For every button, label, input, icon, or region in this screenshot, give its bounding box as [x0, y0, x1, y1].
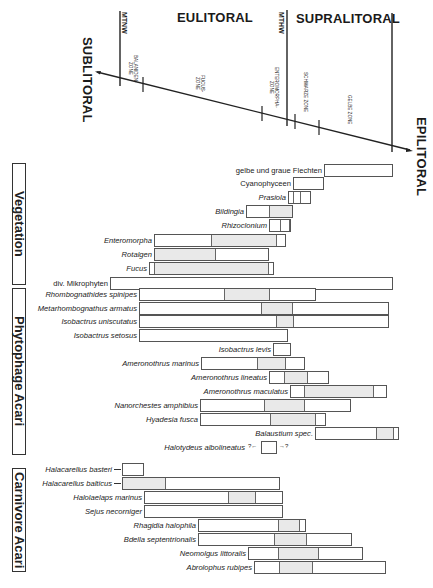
distribution-bar — [200, 413, 326, 426]
range-segment — [247, 206, 269, 217]
row-label: Ameronothrus maculatus — [204, 387, 288, 396]
row-label: Rhizoclonium — [221, 221, 267, 230]
row-label: Sejus necorniger — [85, 507, 142, 516]
distribution-bar — [149, 262, 274, 275]
marker-mthw: MTHW — [278, 12, 285, 34]
distribution-bar — [290, 385, 387, 398]
range-segment-main — [270, 414, 315, 425]
subzone-gelbe: GELBE ZONE — [347, 95, 352, 124]
range-segment — [140, 289, 224, 300]
marker-mtnw: MTNW — [121, 12, 128, 34]
range-segment-main — [274, 534, 306, 545]
range-segment-main — [278, 548, 317, 559]
distribution-bar — [122, 477, 280, 490]
row-label: Enteromorpha — [104, 236, 152, 245]
distribution-bar — [154, 234, 286, 247]
range-segment-main — [154, 263, 268, 274]
row-label: Halotydeus albolineatus — [164, 443, 245, 452]
range-segment — [300, 192, 310, 203]
row-label: gelbe und graue Flechten — [236, 166, 322, 175]
range-segment — [140, 303, 261, 314]
distribution-bar — [144, 491, 283, 504]
row-label: Ameronothrus lineatus — [191, 373, 267, 382]
distribution-bar — [139, 288, 316, 301]
section-carnivore-acari: Carnivore Acari — [12, 468, 26, 572]
range-segment — [316, 428, 376, 439]
range-segment — [199, 534, 274, 545]
distribution-bar — [269, 371, 329, 384]
range-segment — [312, 562, 385, 573]
range-segment — [145, 492, 228, 503]
section-label-vegetation: Vegetation — [13, 164, 25, 284]
range-segment-main — [279, 562, 313, 573]
range-segment — [270, 372, 284, 383]
range-segment — [155, 235, 211, 246]
range-segment — [269, 289, 315, 300]
distribution-bar — [246, 205, 293, 218]
range-segment — [255, 492, 282, 503]
zone-label-sublitoral: SUBLITORAL — [80, 37, 95, 123]
row-label: Halolaelaps marinus — [73, 493, 142, 502]
range-segment — [280, 220, 289, 231]
row-label: Isobactrus levis — [219, 345, 271, 354]
range-segment-main — [278, 520, 299, 531]
subzone-enteromorpha: ENTEROMORPHA- ZONE — [269, 67, 279, 108]
range-segment — [140, 316, 276, 327]
range-segment — [299, 520, 305, 531]
row-label: Abrolophus rubipes — [187, 563, 252, 572]
row-label: Ameronothrus marinus — [122, 359, 199, 368]
row-label: Balaustium spec. — [255, 429, 313, 438]
row-label: Bildingia — [215, 207, 244, 216]
range-segment — [202, 358, 257, 369]
range-segment-main — [228, 492, 256, 503]
row-label: Nanorchestes amphibius — [114, 401, 198, 410]
row-label: Isobactrus setosus — [74, 331, 137, 340]
section-vegetation: Vegetation — [12, 163, 26, 285]
arrow-left-open-icon: ?← — [248, 443, 257, 449]
range-segment — [270, 220, 280, 231]
distribution-bar — [139, 315, 389, 328]
row-label: Fucus — [126, 264, 147, 273]
range-segment — [293, 316, 388, 327]
range-segment-main — [269, 206, 292, 217]
distribution-bar — [198, 533, 352, 546]
distribution-bar — [200, 399, 351, 412]
row-label: Rhombognathides spinipes — [45, 290, 137, 299]
distribution-bar — [288, 191, 311, 204]
section-phytophage-acari: Phytophage Acari — [12, 288, 26, 455]
range-segment — [393, 428, 398, 439]
arrow-right-open-icon: →? — [279, 443, 288, 449]
range-segment — [276, 235, 285, 246]
distribution-bar — [324, 164, 393, 177]
distribution-bar — [293, 177, 324, 190]
range-segment — [285, 358, 304, 369]
range-segment-main — [304, 386, 374, 397]
row-label: div. Mikrophyten — [53, 279, 108, 288]
range-segment — [201, 400, 264, 411]
range-segment-main — [257, 358, 285, 369]
range-segment — [199, 520, 278, 531]
distribution-bar — [254, 561, 386, 574]
range-segment-main — [376, 428, 393, 439]
range-segment — [215, 249, 268, 260]
distribution-bar — [139, 302, 389, 315]
range-segment — [306, 534, 351, 545]
range-segment-main — [123, 478, 165, 489]
zone-label-epilitoral: EPILITORAL — [414, 117, 429, 196]
row-label: Bdella septentrionalis — [124, 535, 196, 544]
distribution-bar — [273, 343, 291, 356]
row-label: Hyadesia fusca — [146, 415, 198, 424]
range-segment — [318, 548, 362, 559]
range-segment — [304, 400, 350, 411]
range-segment — [325, 165, 392, 176]
range-segment — [292, 303, 388, 314]
range-segment — [373, 386, 386, 397]
range-segment — [165, 478, 279, 489]
section-label-phytophage-acari: Phytophage Acari — [13, 289, 25, 454]
range-segment — [201, 414, 270, 425]
arrow-left-icon — [114, 483, 121, 484]
range-segment-main — [261, 303, 292, 314]
range-segment-main — [224, 289, 269, 300]
distribution-bar — [198, 519, 306, 532]
row-label: Rotalgen — [122, 250, 152, 259]
